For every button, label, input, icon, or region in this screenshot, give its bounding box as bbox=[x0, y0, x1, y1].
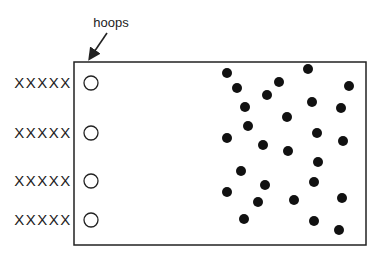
hoop-icon bbox=[84, 213, 98, 227]
arrow-icon bbox=[90, 33, 107, 58]
dot bbox=[313, 157, 323, 167]
dot bbox=[338, 136, 348, 146]
dot bbox=[258, 140, 268, 150]
dot bbox=[222, 187, 232, 197]
hoops-label: hoops bbox=[93, 15, 129, 30]
hoop-icon bbox=[84, 76, 98, 90]
dot bbox=[307, 97, 317, 107]
dot bbox=[236, 166, 246, 176]
hoop-icon bbox=[84, 126, 98, 140]
dot bbox=[239, 214, 249, 224]
row-label: XXXXX bbox=[14, 211, 72, 228]
dot bbox=[309, 216, 319, 226]
dot bbox=[309, 177, 319, 187]
dot bbox=[262, 90, 272, 100]
playing-field bbox=[74, 62, 366, 245]
dot bbox=[260, 180, 270, 190]
hoops-diagram: hoops XXXXX XXXXX XXXXX XXXXX bbox=[0, 0, 379, 258]
dot bbox=[222, 68, 232, 78]
hoop-icon bbox=[84, 174, 98, 188]
dot bbox=[337, 193, 347, 203]
row-label: XXXXX bbox=[14, 172, 72, 189]
dot bbox=[283, 146, 293, 156]
dot bbox=[222, 133, 232, 143]
dot bbox=[253, 197, 263, 207]
row-labels: XXXXX XXXXX XXXXX XXXXX bbox=[14, 74, 72, 228]
dot bbox=[312, 128, 322, 138]
dot bbox=[243, 121, 253, 131]
dot bbox=[303, 64, 313, 74]
dot bbox=[336, 103, 346, 113]
dot bbox=[282, 112, 292, 122]
dot bbox=[240, 102, 250, 112]
dot bbox=[274, 77, 284, 87]
dot bbox=[289, 195, 299, 205]
dot bbox=[344, 81, 354, 91]
dot bbox=[232, 83, 242, 93]
row-label: XXXXX bbox=[14, 124, 72, 141]
row-label: XXXXX bbox=[14, 74, 72, 91]
dots bbox=[222, 64, 354, 235]
dot bbox=[334, 225, 344, 235]
hoops bbox=[84, 76, 98, 227]
